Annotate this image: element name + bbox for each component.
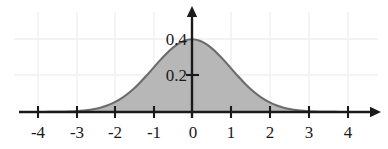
x-tick-label-minus4: -4: [31, 124, 45, 141]
y-axis-arrow-icon: [187, 6, 197, 17]
x-tick-label-minus3: -3: [70, 124, 84, 141]
y-tick-label-0-2: 0.2: [166, 67, 187, 84]
x-tick-label-4: 4: [344, 124, 353, 141]
normal-distribution-chart: -4 -3 -2 -1 0 1 2 3 4 0.2 0.4: [0, 0, 388, 149]
x-tick-label-minus2: -2: [108, 124, 122, 141]
x-tick-label-zero: 0: [189, 124, 198, 141]
x-tick-label-3: 3: [305, 124, 314, 141]
x-axis-arrow-icon: [370, 107, 381, 117]
x-tick-label-minus1: -1: [147, 124, 161, 141]
x-tick-label-2: 2: [266, 124, 275, 141]
x-tick-label-1: 1: [227, 124, 236, 141]
y-tick-label-0-4: 0.4: [166, 31, 187, 48]
